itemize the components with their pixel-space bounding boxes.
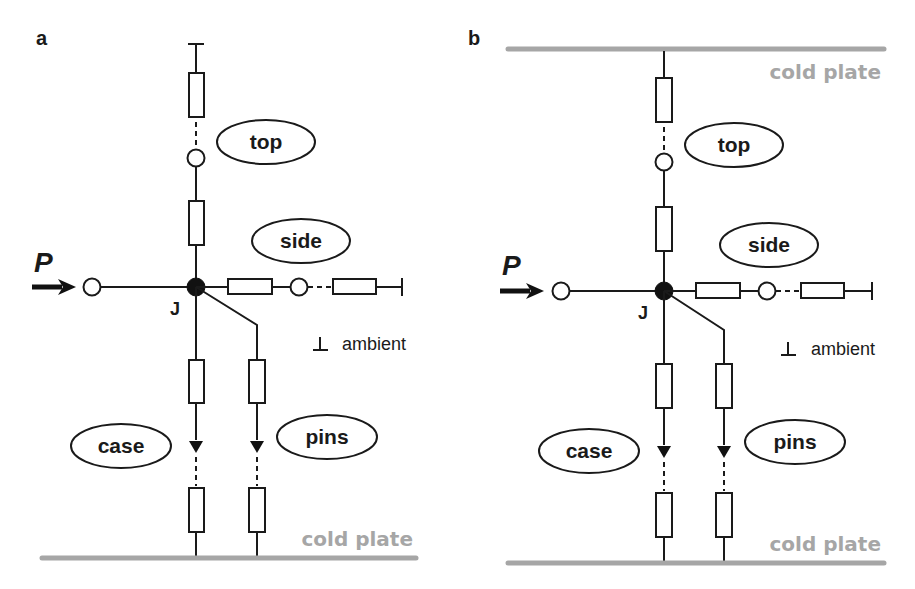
pins-branch bbox=[196, 287, 265, 557]
wire bbox=[664, 291, 724, 364]
resistor-icon bbox=[696, 283, 740, 298]
thermal-network-diagram: a top P J bbox=[0, 0, 915, 589]
node-icon bbox=[291, 279, 308, 296]
panel-a: a top P J bbox=[32, 27, 416, 558]
power-arrow-icon bbox=[32, 279, 76, 295]
resistor-icon bbox=[716, 493, 732, 537]
side-label: side bbox=[748, 233, 790, 256]
pins-branch bbox=[664, 291, 732, 562]
case-branch bbox=[656, 291, 672, 562]
wire bbox=[196, 287, 257, 360]
resistor-icon bbox=[189, 488, 204, 532]
cold-plate-label: cold plate bbox=[769, 532, 881, 556]
resistor-icon bbox=[189, 201, 204, 245]
cold-plate-label: cold plate bbox=[301, 527, 413, 551]
node-icon bbox=[188, 150, 205, 167]
resistor-icon bbox=[249, 360, 265, 403]
panel-b: b cold plate top P J bbox=[468, 27, 884, 563]
top-branch bbox=[188, 44, 205, 286]
resistor-icon bbox=[801, 283, 844, 298]
resistor-icon bbox=[228, 279, 272, 294]
heat-flow-arrow-icon bbox=[189, 441, 203, 453]
junction-label: J bbox=[170, 299, 180, 319]
ambient-label: ambient bbox=[342, 334, 406, 354]
resistor-icon bbox=[656, 78, 672, 122]
node-icon bbox=[759, 283, 776, 300]
side-branch bbox=[664, 282, 872, 300]
junction-label: J bbox=[638, 303, 648, 323]
heat-flow-arrow-icon bbox=[657, 446, 671, 458]
ambient-label: ambient bbox=[811, 339, 875, 359]
power-arrow-icon bbox=[500, 283, 544, 299]
power-label: P bbox=[502, 250, 521, 281]
power-label: P bbox=[34, 247, 53, 278]
resistor-icon bbox=[189, 360, 204, 403]
pins-label: pins bbox=[773, 430, 816, 453]
case-branch bbox=[189, 287, 204, 557]
resistor-icon bbox=[716, 364, 732, 408]
node-icon bbox=[656, 154, 673, 171]
ambient-legend: ambient bbox=[313, 334, 406, 354]
heat-flow-arrow-icon bbox=[717, 446, 731, 458]
top-label: top bbox=[718, 133, 751, 156]
resistor-icon bbox=[249, 488, 265, 532]
case-label: case bbox=[566, 439, 613, 462]
panel-label-a: a bbox=[36, 27, 48, 49]
ambient-legend: ambient bbox=[781, 339, 875, 359]
side-label: side bbox=[280, 229, 322, 252]
cold-plate-top-label: cold plate bbox=[769, 60, 881, 84]
resistor-icon bbox=[189, 73, 204, 117]
pins-label: pins bbox=[305, 425, 348, 448]
resistor-icon bbox=[656, 207, 672, 251]
node-icon bbox=[84, 279, 101, 296]
side-branch bbox=[196, 278, 402, 296]
panel-label-b: b bbox=[468, 27, 480, 49]
resistor-icon bbox=[333, 279, 376, 294]
heat-flow-arrow-icon bbox=[250, 441, 264, 453]
resistor-icon bbox=[656, 493, 672, 537]
top-label: top bbox=[250, 130, 283, 153]
case-label: case bbox=[98, 434, 145, 457]
resistor-icon bbox=[656, 364, 672, 408]
top-branch bbox=[656, 51, 673, 291]
node-icon bbox=[553, 283, 570, 300]
